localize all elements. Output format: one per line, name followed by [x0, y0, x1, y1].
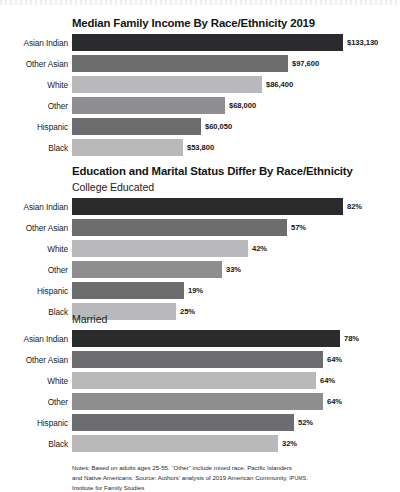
bar-track: 52% — [72, 412, 400, 433]
notes-ipums: IPUMS. — [289, 475, 308, 481]
bar-value-label: 82% — [343, 202, 362, 211]
bar-track: $60,050 — [72, 116, 400, 137]
bar-value-label: $68,000 — [225, 101, 256, 110]
bar-value-label: 57% — [287, 223, 306, 232]
bar-track: 78% — [72, 328, 400, 349]
bar-category-label: Hispanic — [0, 122, 72, 132]
bar-category-label: Other Asian — [0, 59, 72, 69]
bar-category-label: Other Asian — [0, 355, 72, 365]
bar-track: $97,600 — [72, 53, 400, 74]
bar-value-label: 78% — [340, 334, 359, 343]
bar-track: 64% — [72, 391, 400, 412]
bar-track: 64% — [72, 349, 400, 370]
bar — [72, 118, 201, 135]
bar-row: White$86,400 — [0, 74, 400, 95]
bar-row: Other$68,000 — [0, 95, 400, 116]
bar — [72, 414, 294, 431]
bar-value-label: 19% — [184, 286, 203, 295]
bar-track: 64% — [72, 370, 400, 391]
bar — [72, 282, 184, 299]
bar-category-label: Other — [0, 101, 72, 111]
bar-category-label: White — [0, 376, 72, 386]
bar-track: 33% — [72, 259, 400, 280]
bar-track: $133,130 — [72, 32, 400, 53]
bar-value-label: $86,400 — [262, 80, 293, 89]
chart2-subtitle: College Educated — [72, 181, 400, 193]
source-notes: Notes: Based on adults ages 25-55. “Othe… — [72, 463, 340, 492]
bar — [72, 372, 316, 389]
bar-category-label: Black — [0, 439, 72, 449]
bar-category-label: Hispanic — [0, 418, 72, 428]
bar-row: Hispanic$60,050 — [0, 116, 400, 137]
bar-value-label: 64% — [316, 376, 335, 385]
bar-row: Asian Indian78% — [0, 328, 400, 349]
bar — [72, 435, 278, 452]
bar-row: Other64% — [0, 391, 400, 412]
bar-value-label: 64% — [323, 397, 342, 406]
bar-row: Other Asian64% — [0, 349, 400, 370]
bar-value-label: $97,600 — [288, 59, 319, 68]
bar — [72, 240, 248, 257]
chart1-title: Median Family Income By Race/Ethnicity 2… — [72, 17, 400, 29]
bar-row: White42% — [0, 238, 400, 259]
bar-track: $86,400 — [72, 74, 400, 95]
bar — [72, 219, 287, 236]
chart3-bar-rows: Asian Indian78%Other Asian64%White64%Oth… — [0, 328, 400, 454]
bar-value-label: $60,050 — [201, 122, 232, 131]
bar-value-label: 64% — [323, 355, 342, 364]
notes-line-3: Institute for Family Studies — [72, 484, 144, 491]
bar — [72, 97, 225, 114]
bar-value-label: 33% — [222, 265, 241, 274]
chart-section-income: Median Family Income By Race/Ethnicity 2… — [0, 17, 400, 158]
bar-track: 32% — [72, 433, 400, 454]
bar-value-label: 52% — [294, 418, 313, 427]
bar — [72, 393, 323, 410]
chart2-title: Education and Marital Status Differ By R… — [72, 165, 400, 177]
bar-category-label: Hispanic — [0, 286, 72, 296]
chart-section-married: Married Asian Indian78%Other Asian64%Whi… — [0, 313, 400, 492]
bar-row: Other Asian$97,600 — [0, 53, 400, 74]
bar-value-label: 42% — [248, 244, 267, 253]
infographic-page: Median Family Income By Race/Ethnicity 2… — [0, 0, 400, 492]
bar-value-label: 32% — [278, 439, 297, 448]
bar-category-label: White — [0, 244, 72, 254]
bar-row: Black$53,800 — [0, 137, 400, 158]
bar-category-label: Black — [0, 143, 72, 153]
bar — [72, 351, 323, 368]
bar-category-label: White — [0, 80, 72, 90]
chart1-bar-rows: Asian Indian$133,130Other Asian$97,600Wh… — [0, 32, 400, 158]
bar-track: 57% — [72, 217, 400, 238]
bar-row: Other33% — [0, 259, 400, 280]
bar-track: $68,000 — [72, 95, 400, 116]
bar — [72, 76, 262, 93]
bar-category-label: Other — [0, 397, 72, 407]
bar-row: Hispanic52% — [0, 412, 400, 433]
bar-track: 19% — [72, 280, 400, 301]
bar-track: 42% — [72, 238, 400, 259]
bar-value-label: $133,130 — [343, 38, 378, 47]
bar-track: $53,800 — [72, 137, 400, 158]
bar — [72, 261, 222, 278]
bar-category-label: Other — [0, 265, 72, 275]
chart-section-college: Education and Marital Status Differ By R… — [0, 165, 400, 322]
bar-row: Other Asian57% — [0, 217, 400, 238]
bar-row: Black32% — [0, 433, 400, 454]
chart3-subtitle: Married — [72, 313, 400, 325]
notes-line-1: Notes: Based on adults ages 25-55. “Othe… — [72, 464, 292, 471]
bar-category-label: Asian Indian — [0, 334, 72, 344]
bar — [72, 34, 343, 51]
bar-value-label: $53,800 — [183, 143, 214, 152]
bar — [72, 198, 343, 215]
bar-row: Asian Indian82% — [0, 196, 400, 217]
bar-row: Asian Indian$133,130 — [0, 32, 400, 53]
bar — [72, 55, 288, 72]
bar-category-label: Asian Indian — [0, 202, 72, 212]
bar — [72, 139, 183, 156]
bar-category-label: Other Asian — [0, 223, 72, 233]
chart2-bar-rows: Asian Indian82%Other Asian57%White42%Oth… — [0, 196, 400, 322]
bar-row: White64% — [0, 370, 400, 391]
bar-category-label: Asian Indian — [0, 38, 72, 48]
notes-line-2: and Native Americans. Source: Authors’ a… — [72, 474, 289, 481]
bar-row: Hispanic19% — [0, 280, 400, 301]
bar — [72, 330, 340, 347]
